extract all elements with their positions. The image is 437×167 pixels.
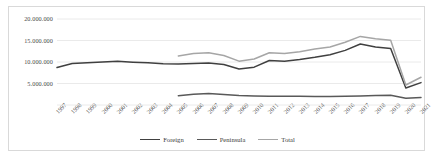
legend-label: Foreign (163, 136, 184, 143)
legend-label: Peninsula (220, 136, 246, 143)
series-lines (57, 36, 421, 98)
legend-swatch-icon (197, 139, 217, 141)
legend-swatch-icon (258, 139, 278, 141)
legend-item-total[interactable]: Total (258, 136, 294, 143)
chart-plot-area (9, 7, 426, 152)
legend-label: Total (281, 136, 294, 143)
series-line-foreign (57, 44, 421, 88)
series-line-peninsula (178, 93, 421, 98)
legend-item-foreign[interactable]: Foreign (140, 136, 184, 143)
legend-item-peninsula[interactable]: Peninsula (197, 136, 246, 143)
series-line-total (178, 36, 421, 85)
chart-container: 5.000.00010.000.00015.000.00020.000.000 … (8, 6, 425, 151)
chart-legend: ForeignPeninsulaTotal (9, 136, 426, 143)
legend-swatch-icon (140, 139, 160, 141)
